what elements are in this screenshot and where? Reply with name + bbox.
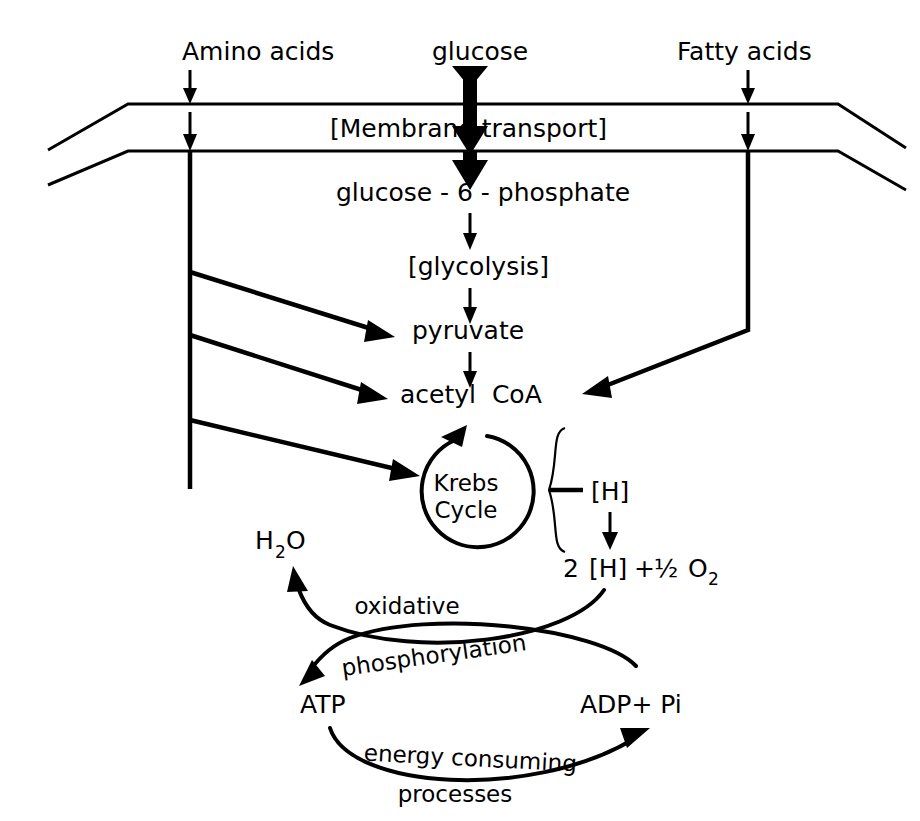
- g6p-to-glycolysis-arrow: [463, 213, 477, 250]
- fatty-acids-arrow-upper: [741, 70, 755, 104]
- metabolism-diagram: Amino acids glucose Fatty acids [Membran…: [0, 0, 920, 821]
- h-to-2h-arrow: [602, 512, 618, 550]
- adp-pi-label: ADP+ Pi: [580, 690, 682, 719]
- acetyl-coa-label: acetyl CoA: [400, 380, 542, 409]
- amino-branch-to-krebs: [190, 420, 420, 481]
- hydrogen-bracket-label: [H]: [591, 477, 629, 506]
- oxidative-label: oxidative: [354, 593, 459, 619]
- amino-acids-arrow-upper: [183, 70, 197, 104]
- oxygen-symbol: O: [688, 554, 708, 583]
- pyruvate-label: pyruvate: [412, 316, 524, 345]
- water-o: O: [286, 526, 306, 555]
- water-subscript: 2: [275, 542, 286, 562]
- fatty-acids-label: Fatty acids: [677, 37, 812, 66]
- plus-sign: +: [634, 554, 655, 583]
- amino-branch-to-pyruvate: [190, 272, 395, 342]
- metabolism-svg-canvas: Amino acids glucose Fatty acids [Membran…: [0, 0, 920, 821]
- krebs-cycle-label-line2: Cycle: [435, 497, 498, 523]
- hydrogen-bracket-label-2: [H]: [589, 554, 627, 583]
- amino-acids-arrow-lower: [183, 112, 197, 151]
- glycolysis-label: [glycolysis]: [408, 252, 549, 281]
- glucose-arrow-upper: [452, 66, 488, 108]
- amino-acids-label: Amino acids: [182, 37, 334, 66]
- processes-label: processes: [398, 781, 513, 807]
- two-coefficient: 2: [563, 554, 579, 583]
- water-label-group: H 2 O: [255, 526, 306, 562]
- water-h: H: [255, 526, 274, 555]
- oxygen-subscript: 2: [708, 569, 719, 589]
- amino-branch-to-acetylcoa: [190, 335, 388, 404]
- glucose-6-phosphate-label: glucose - 6 - phosphate: [336, 178, 630, 207]
- fatty-acids-arrow-lower: [741, 112, 755, 151]
- krebs-cycle-label-line1: Krebs: [434, 470, 499, 496]
- glucose-arrow-middle: [452, 104, 488, 155]
- two-hydrogen-plus-half-oxygen-group: 2 [H] + ½ O 2: [563, 554, 719, 589]
- glucose-label: glucose: [432, 37, 528, 66]
- atp-label: ATP: [300, 690, 346, 719]
- hydrogen-brace: [549, 428, 583, 552]
- half-fraction: ½: [654, 554, 678, 583]
